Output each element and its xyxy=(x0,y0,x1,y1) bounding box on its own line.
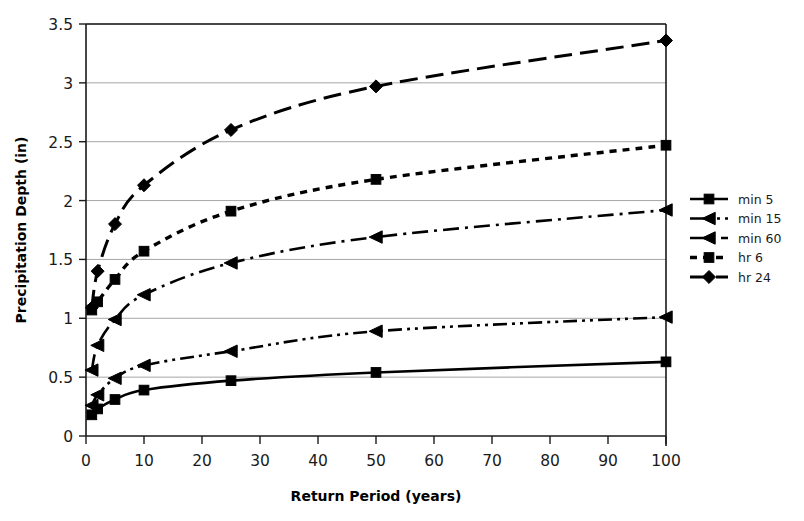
x-tick-label: 70 xyxy=(482,452,502,470)
chart-legend: min 5min 15min 60hr 6hr 24 xyxy=(690,192,781,285)
x-tick-label: 60 xyxy=(424,452,444,470)
legend-item-min-60[interactable]: min 60 xyxy=(690,231,781,246)
legend-item-label: min 60 xyxy=(738,231,781,246)
x-tick-label: 80 xyxy=(540,452,560,470)
legend-item-label: min 15 xyxy=(738,211,781,226)
x-tick-label: 30 xyxy=(250,452,270,470)
data-point-marker xyxy=(226,376,236,386)
legend-item-label: hr 6 xyxy=(738,250,763,265)
data-point-marker xyxy=(110,395,120,405)
y-tick-label: 0 xyxy=(63,428,73,446)
x-tick-label: 50 xyxy=(366,452,386,470)
data-point-marker xyxy=(661,357,671,367)
data-point-marker xyxy=(139,385,149,395)
y-tick-label: 2 xyxy=(63,193,73,211)
legend-swatch-marker xyxy=(704,194,714,204)
legend-item-label: hr 24 xyxy=(738,270,771,285)
legend-swatch-marker xyxy=(702,212,715,224)
x-axis-ticks: 0102030405060708090100 xyxy=(81,436,681,470)
legend-swatch-marker xyxy=(702,232,715,244)
legend-swatch-marker xyxy=(704,253,714,263)
legend-item-min-5[interactable]: min 5 xyxy=(690,192,774,207)
y-axis-title: Precipitation Depth (in) xyxy=(13,137,29,324)
x-tick-label: 100 xyxy=(651,452,681,470)
x-tick-label: 10 xyxy=(134,452,154,470)
y-tick-label: 0.5 xyxy=(48,369,73,387)
data-point-marker xyxy=(371,175,381,185)
data-point-marker xyxy=(139,246,149,256)
data-point-marker xyxy=(371,368,381,378)
x-tick-label: 0 xyxy=(81,452,91,470)
legend-item-label: min 5 xyxy=(738,192,774,207)
x-tick-label: 20 xyxy=(192,452,212,470)
x-axis-title: Return Period (years) xyxy=(291,488,462,504)
x-tick-label: 40 xyxy=(308,452,328,470)
y-axis-ticks: 00.511.522.533.5 xyxy=(48,16,86,446)
chart-container: 00.511.522.533.5 0102030405060708090100 … xyxy=(0,0,804,521)
y-tick-label: 3 xyxy=(63,75,73,93)
x-tick-label: 90 xyxy=(598,452,618,470)
y-tick-label: 3.5 xyxy=(48,16,73,34)
legend-item-hr-6[interactable]: hr 6 xyxy=(690,250,763,265)
y-tick-label: 2.5 xyxy=(48,134,73,152)
y-tick-label: 1.5 xyxy=(48,251,73,269)
legend-swatch-marker xyxy=(702,270,715,283)
y-tick-label: 1 xyxy=(63,310,73,328)
precipitation-idf-chart: 00.511.522.533.5 0102030405060708090100 … xyxy=(0,0,804,521)
data-point-marker xyxy=(661,140,671,150)
data-point-marker xyxy=(110,275,120,285)
legend-item-min-15[interactable]: min 15 xyxy=(690,211,781,226)
legend-item-hr-24[interactable]: hr 24 xyxy=(690,270,771,285)
data-point-marker xyxy=(226,206,236,216)
